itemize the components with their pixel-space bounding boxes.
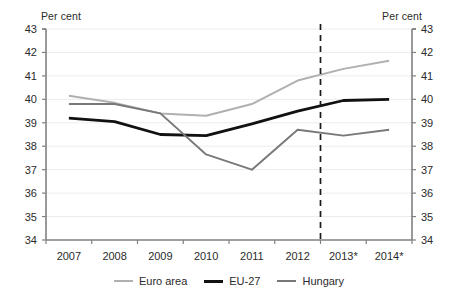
legend-label: Hungary [302, 275, 344, 287]
x-axis-tick-label: 2011 [240, 250, 264, 262]
x-axis-labels: 2007200820092010201120122013*2014* [57, 250, 405, 262]
y-axis-right-tick-label: 38 [421, 140, 433, 152]
legend-line-swatch [204, 280, 223, 283]
x-axis-tick-label: 2010 [194, 250, 218, 262]
data-series [69, 61, 389, 170]
y-axis-left-tick-label: 43 [25, 23, 37, 35]
legend-item[interactable]: EU-27 [204, 275, 260, 287]
y-axis-right-tick-label: 36 [421, 187, 433, 199]
legend-label: EU-27 [229, 275, 260, 287]
legend-item[interactable]: Euro area [114, 275, 187, 287]
series-line [69, 104, 389, 170]
chart-legend: Euro areaEU-27Hungary [0, 275, 458, 287]
y-axis-left-labels: 43424140393837363534 [25, 23, 37, 246]
y-axis-right-tick-label: 43 [421, 23, 433, 35]
y-axis-left-tick-label: 41 [25, 70, 37, 82]
legend-line-swatch [114, 280, 133, 282]
y-axis-left-tick-label: 40 [25, 93, 37, 105]
x-axis-tick-label: 2014* [375, 250, 404, 262]
y-axis-left-tick-label: 35 [25, 211, 37, 223]
x-axis-tick-label: 2012 [285, 250, 309, 262]
line-chart: Per cent Per cent 43424140393837363534 4… [0, 0, 458, 291]
y-axis-left-tick-label: 37 [25, 164, 37, 176]
y-axis-right-tick-label: 40 [421, 93, 433, 105]
legend-label: Euro area [139, 275, 187, 287]
y-axis-right-tick-label: 42 [421, 46, 433, 58]
plot-area: 43424140393837363534 4342414039383736353… [0, 0, 458, 291]
y-axis-left-tick-label: 42 [25, 46, 37, 58]
y-axis-left-tick-label: 36 [25, 187, 37, 199]
y-axis-right-tick-label: 39 [421, 117, 433, 129]
y-axis-left-tick-label: 38 [25, 140, 37, 152]
legend-line-swatch [277, 280, 296, 282]
y-axis-right-labels: 43424140393837363534 [421, 23, 433, 246]
x-axis-tick-label: 2008 [102, 250, 126, 262]
y-axis-right-tick-label: 41 [421, 70, 433, 82]
y-axis-left-tick-label: 34 [25, 234, 37, 246]
series-line [69, 61, 389, 116]
y-axis-right-tick-label: 35 [421, 211, 433, 223]
y-axis-left-tick-label: 39 [25, 117, 37, 129]
legend-item[interactable]: Hungary [277, 275, 344, 287]
x-axis-tick-label: 2007 [57, 250, 81, 262]
chart-svg: 43424140393837363534 4342414039383736353… [0, 0, 458, 291]
y-axis-right-tick-label: 37 [421, 164, 433, 176]
x-axis-tick-label: 2009 [148, 250, 172, 262]
gridlines [46, 29, 412, 217]
x-axis-tick-label: 2013* [329, 250, 358, 262]
y-axis-right-tick-label: 34 [421, 234, 433, 246]
